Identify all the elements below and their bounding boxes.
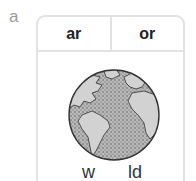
globe-icon bbox=[66, 67, 162, 163]
question-label: a bbox=[9, 7, 18, 27]
letter-options-row: ar or bbox=[38, 17, 183, 52]
word-part-left: w bbox=[82, 161, 95, 181]
option-ar[interactable]: ar bbox=[38, 17, 110, 50]
option-or[interactable]: or bbox=[110, 17, 184, 50]
word-card: ar or w ld bbox=[36, 15, 185, 181]
word-part-right: ld bbox=[128, 161, 142, 181]
